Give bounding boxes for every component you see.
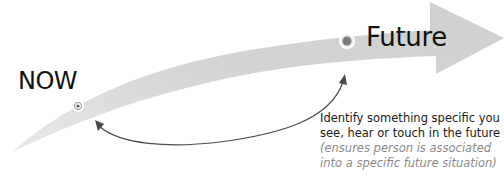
caption-line-2: see, hear or touch in the future — [320, 126, 504, 141]
caption-line-1: Identify something specific you — [320, 111, 504, 126]
caption-note-2: into a specific future situation) — [320, 156, 504, 171]
future-label: Future — [366, 22, 447, 52]
now-marker-icon — [72, 100, 84, 112]
caption-note-1: (ensures person is associated — [320, 141, 504, 156]
caption-block: Identify something specific you see, hea… — [320, 111, 504, 171]
future-marker-icon — [339, 33, 355, 49]
now-label: NOW — [18, 67, 77, 95]
